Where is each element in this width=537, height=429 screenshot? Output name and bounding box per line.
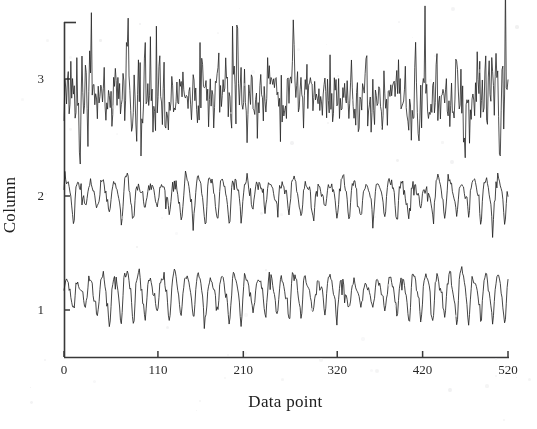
y-tick-label: 1 <box>0 302 52 318</box>
x-tick-label: 210 <box>234 362 254 378</box>
x-axis-title-text: Data point <box>248 392 322 412</box>
x-axis-title: Data point <box>0 392 537 412</box>
axis-lines <box>64 22 509 358</box>
x-tick-label: 0 <box>61 362 68 378</box>
x-tick-label: 420 <box>413 362 433 378</box>
x-tick-label: 110 <box>148 362 167 378</box>
y-tick-label: 3 <box>0 71 52 87</box>
axis-ticks <box>64 79 508 357</box>
x-tick-label: 320 <box>327 362 347 378</box>
data-series-group <box>64 0 508 329</box>
series-trace <box>64 0 508 164</box>
series-trace <box>64 267 508 329</box>
plot-canvas <box>0 0 537 429</box>
series-trace <box>64 171 508 237</box>
scanned-figure: 0110210320420520123 Data point Column <box>0 0 537 429</box>
y-axis-title: Column <box>0 177 20 234</box>
x-tick-label: 520 <box>498 362 518 378</box>
